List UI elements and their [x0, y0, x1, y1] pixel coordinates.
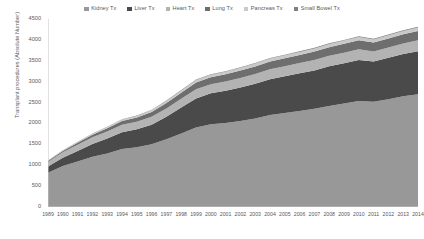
legend-swatch-icon: [205, 7, 210, 12]
x-tick-label: 1991: [72, 212, 84, 217]
legend-swatch-icon: [244, 7, 249, 12]
y-tick-label: 3500: [29, 58, 41, 64]
x-tick-label: 2008: [323, 212, 335, 217]
y-tick-label: 1000: [29, 162, 41, 168]
x-tick-label: 1993: [101, 212, 113, 217]
legend-label: Small Bowel Tx: [301, 6, 340, 12]
y-tick-label: 3000: [29, 79, 41, 85]
x-tick-label: 1989: [42, 212, 54, 217]
legend-label: Liver Tx: [134, 6, 154, 12]
legend-item[interactable]: Pancreas Tx: [244, 6, 283, 12]
chart-legend: Kidney TxLiver TxHeart TxLung TxPancreas…: [0, 6, 424, 12]
x-tick-label: 1992: [87, 212, 99, 217]
x-tick-label: 2012: [383, 212, 395, 217]
x-tick-label: 2013: [397, 212, 409, 217]
y-tick-label: 2000: [29, 121, 41, 127]
legend-item[interactable]: Heart Tx: [166, 6, 195, 12]
x-tick-label: 1997: [161, 212, 173, 217]
legend-swatch-icon: [84, 7, 89, 12]
legend-label: Lung Tx: [212, 6, 232, 12]
legend-swatch-icon: [127, 7, 132, 12]
x-tick-label: 2014: [412, 212, 424, 217]
x-tick-label: 2011: [368, 212, 379, 217]
y-tick-label: 1500: [29, 142, 41, 148]
y-tick-label: 4500: [29, 16, 41, 22]
x-axis-tick-labels: 1989199019911992199319941995199619971998…: [48, 212, 418, 228]
legend-item[interactable]: Kidney Tx: [84, 6, 116, 12]
legend-swatch-icon: [294, 7, 299, 12]
stacked-area-chart: Kidney TxLiver TxHeart TxLung TxPancreas…: [0, 0, 424, 239]
legend-label: Pancreas Tx: [251, 6, 283, 12]
x-tick-label: 1998: [175, 212, 187, 217]
legend-item[interactable]: Lung Tx: [205, 6, 232, 12]
area-series-svg: [48, 19, 418, 207]
y-tick-label: 4000: [29, 37, 41, 43]
x-tick-label: 2006: [294, 212, 306, 217]
x-tick-label: 2002: [235, 212, 247, 217]
x-tick-label: 1990: [57, 212, 69, 217]
y-axis-tick-labels: 050010001500200025003000350040004500: [0, 19, 45, 207]
x-tick-label: 2010: [353, 212, 365, 217]
x-tick-label: 1994: [116, 212, 128, 217]
legend-item[interactable]: Small Bowel Tx: [294, 6, 340, 12]
legend-item[interactable]: Liver Tx: [127, 6, 154, 12]
y-tick-label: 0: [38, 204, 41, 210]
legend-swatch-icon: [166, 7, 171, 12]
x-tick-label: 2005: [279, 212, 291, 217]
x-tick-label: 2001: [220, 212, 232, 217]
x-tick-label: 2000: [205, 212, 217, 217]
plot-area: [48, 19, 418, 207]
x-tick-label: 1995: [131, 212, 143, 217]
x-tick-label: 1996: [146, 212, 158, 217]
y-tick-label: 2500: [29, 100, 41, 106]
x-tick-label: 1999: [190, 212, 202, 217]
x-tick-label: 2009: [338, 212, 350, 217]
legend-label: Kidney Tx: [91, 6, 116, 12]
x-tick-label: 2004: [264, 212, 276, 217]
y-tick-label: 500: [32, 183, 41, 189]
legend-label: Heart Tx: [173, 6, 195, 12]
x-tick-label: 2007: [309, 212, 321, 217]
x-tick-label: 2003: [249, 212, 261, 217]
